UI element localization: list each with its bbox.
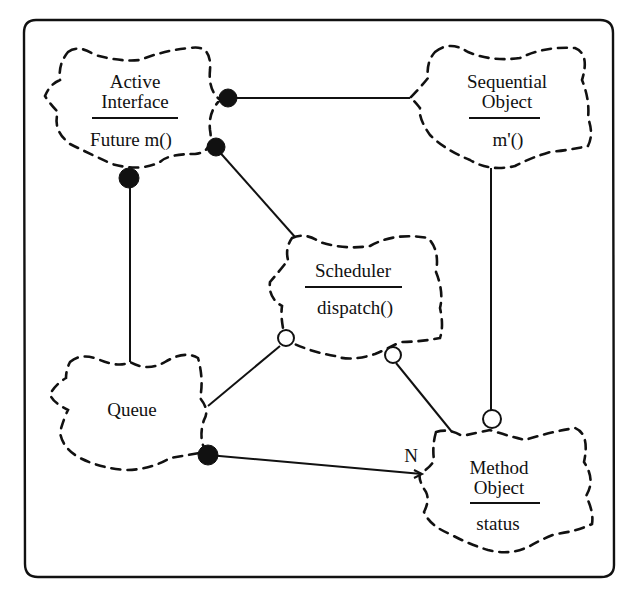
- active-interface-name-line1: Active: [110, 71, 161, 92]
- scheduler-name: Scheduler: [315, 260, 392, 281]
- sequential-object-name-line1: Sequential: [467, 71, 547, 92]
- method-object-member: status: [476, 513, 519, 534]
- edge-scheduler-method: [396, 363, 452, 432]
- scheduler-member: dispatch(): [317, 297, 393, 319]
- filled-dot-active-sequential: [219, 89, 237, 107]
- edge-queue-method: [208, 455, 422, 474]
- active-interface-name-line2: Interface: [101, 91, 169, 112]
- sequential-object-member: m'(): [493, 129, 524, 151]
- hollow-dot-sequential-method: [483, 410, 501, 428]
- queue-name: Queue: [107, 399, 157, 420]
- multiplicity-label: N: [404, 445, 418, 466]
- hollow-dot-scheduler-method: [385, 347, 401, 363]
- active-interface-member: Future m(): [90, 129, 172, 151]
- method-object-name-line1: Method: [469, 457, 529, 478]
- edge-active-scheduler: [216, 148, 295, 237]
- class-diagram: Active Interface Future m() Sequential O…: [0, 0, 639, 591]
- filled-dot-queue-method: [198, 445, 218, 465]
- filled-dot-active-scheduler: [207, 138, 225, 156]
- method-object-name-line2: Object: [474, 477, 525, 498]
- hollow-dot-scheduler-queue: [278, 330, 294, 346]
- edge-scheduler-queue: [208, 346, 280, 406]
- sequential-object-name-line2: Object: [482, 91, 533, 112]
- filled-dot-active-queue: [119, 168, 139, 188]
